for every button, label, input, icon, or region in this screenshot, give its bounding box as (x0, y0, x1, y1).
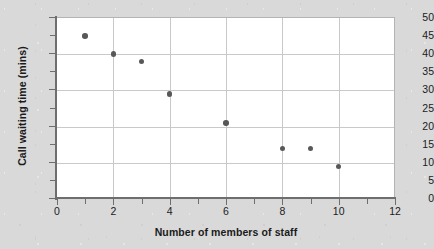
data-point (223, 120, 229, 126)
x-tick-11 (367, 199, 368, 204)
y-tick-label: 45 (390, 30, 434, 40)
y-tick-45 (50, 35, 55, 36)
y-tick-0 (49, 198, 55, 199)
y-tick-10 (49, 162, 55, 163)
gridline-x-6 (226, 18, 227, 198)
y-tick-label: 0 (390, 193, 434, 203)
x-tick-label: 6 (211, 206, 241, 217)
y-tick-label: 15 (390, 139, 434, 149)
y-tick-label: 40 (390, 48, 434, 58)
x-tick-label: 12 (380, 206, 410, 217)
y-tick-label: 30 (390, 84, 434, 94)
x-tick-9 (311, 199, 312, 204)
x-tick-5 (198, 199, 199, 204)
y-axis-line (55, 16, 57, 200)
y-tick-20 (49, 126, 55, 127)
y-tick-15 (50, 144, 55, 145)
x-tick-label: 2 (98, 206, 128, 217)
data-point (167, 91, 173, 97)
x-tick-7 (254, 199, 255, 204)
y-tick-label: 20 (390, 121, 434, 131)
x-tick-1 (85, 199, 86, 204)
y-tick-50 (49, 17, 55, 18)
scatter-plot-figure: Call waiting time (mins) 50 45 40 35 (0, 0, 434, 249)
data-point (336, 164, 342, 170)
y-tick-label: 25 (390, 103, 434, 113)
x-tick-label: 8 (267, 206, 297, 217)
y-tick-label: 35 (390, 66, 434, 76)
x-tick-label: 4 (155, 206, 185, 217)
gridline-x-8 (282, 18, 283, 198)
y-tick-label: 5 (390, 175, 434, 185)
plot-area (57, 17, 395, 198)
y-tick-label: 50 (390, 12, 434, 22)
gridline-x-4 (170, 18, 171, 198)
gridline-x-10 (339, 18, 340, 198)
y-tick-30 (49, 89, 55, 90)
data-point (280, 146, 286, 152)
gridline-x-2 (113, 18, 114, 198)
data-point (139, 59, 145, 65)
x-tick-3 (142, 199, 143, 204)
data-point (82, 33, 88, 39)
x-tick-label: 10 (324, 206, 354, 217)
y-axis-title: Call waiting time (mins) (14, 7, 30, 205)
y-tick-40 (49, 53, 55, 54)
data-point (308, 146, 314, 152)
x-axis-title: Number of members of staff (57, 226, 395, 238)
data-point (111, 51, 117, 57)
y-tick-25 (50, 108, 55, 109)
y-tick-35 (50, 71, 55, 72)
y-tick-5 (50, 180, 55, 181)
x-tick-label: 0 (42, 206, 72, 217)
y-tick-label: 10 (390, 157, 434, 167)
